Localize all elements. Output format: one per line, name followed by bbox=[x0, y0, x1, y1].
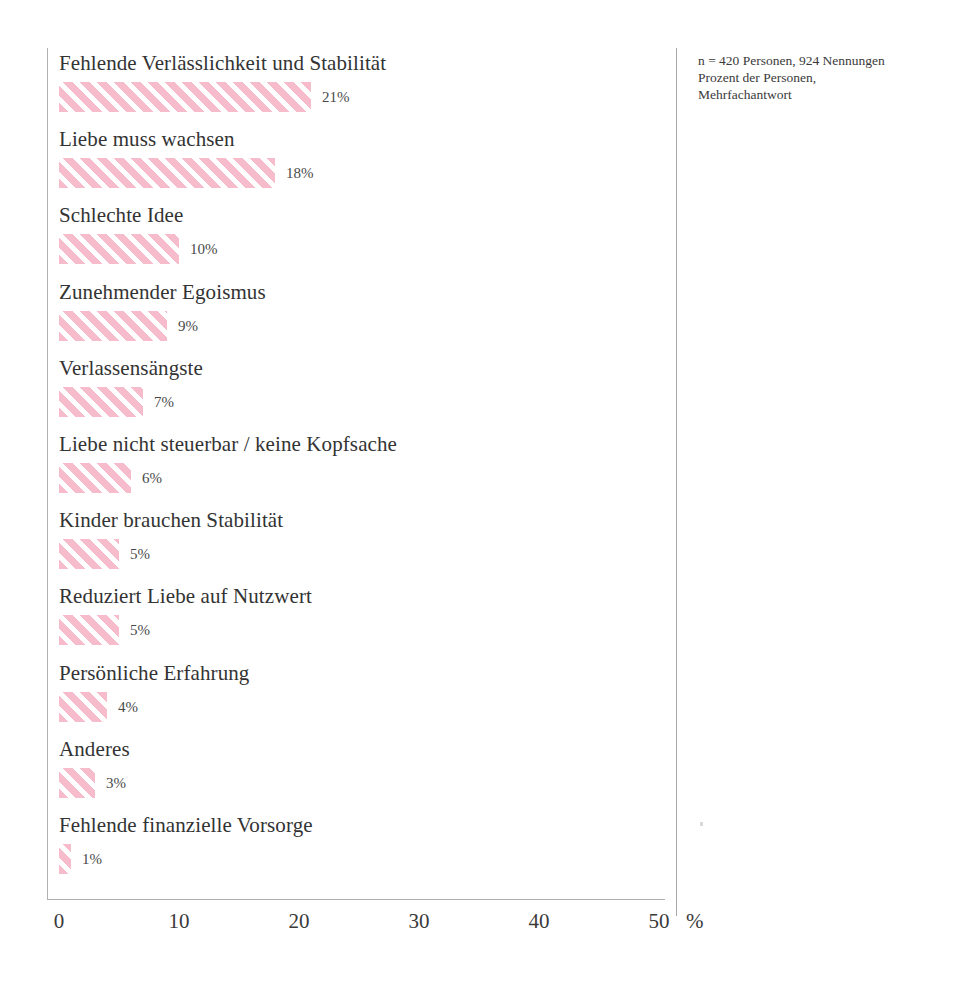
x-axis-tick: 50 bbox=[629, 908, 689, 934]
bar-value-label: 3% bbox=[106, 775, 126, 791]
panel-divider bbox=[676, 48, 677, 916]
bar bbox=[59, 463, 131, 493]
bar bbox=[59, 539, 119, 569]
bar-value-label: 5% bbox=[130, 622, 150, 638]
bar-value-label: 10% bbox=[190, 241, 218, 257]
bar-value-label: 21% bbox=[322, 89, 350, 105]
bar-category-label: Reduziert Liebe auf Nutzwert bbox=[59, 583, 312, 609]
bar-category-label: Liebe muss wachsen bbox=[59, 126, 235, 152]
bar-category-label: Anderes bbox=[59, 736, 130, 762]
y-axis-spine bbox=[47, 48, 48, 900]
bar-value-label: 4% bbox=[118, 699, 138, 715]
bar bbox=[59, 692, 107, 722]
bar bbox=[59, 844, 71, 874]
bar-category-label: Fehlende finanzielle Vorsorge bbox=[59, 812, 313, 838]
bar bbox=[59, 615, 119, 645]
bar-category-label: Verlassensängste bbox=[59, 355, 203, 381]
bar bbox=[59, 311, 167, 341]
chart-note-line-2: Prozent der Personen, bbox=[698, 69, 948, 86]
bar bbox=[59, 158, 275, 188]
bar-category-label: Fehlende Verlässlichkeit und Stabilität bbox=[59, 50, 386, 76]
bar-category-label: Zunehmender Egoismus bbox=[59, 279, 266, 305]
chart-note-line-3: Mehrfachantwort bbox=[698, 86, 948, 103]
x-axis-tick: 20 bbox=[269, 908, 329, 934]
bar-category-label: Kinder brauchen Stabilität bbox=[59, 507, 283, 533]
bar bbox=[59, 234, 179, 264]
x-axis-tick: 10 bbox=[149, 908, 209, 934]
x-axis-tick: 0 bbox=[29, 908, 89, 934]
bar-category-label: Liebe nicht steuerbar / keine Kopfsache bbox=[59, 431, 397, 457]
x-axis-tick: 40 bbox=[509, 908, 569, 934]
bar-value-label: 6% bbox=[142, 470, 162, 486]
bar-value-label: 9% bbox=[178, 318, 198, 334]
bar-value-label: 18% bbox=[286, 165, 314, 181]
bar bbox=[59, 387, 143, 417]
x-axis-tick: 30 bbox=[389, 908, 449, 934]
bar-category-label: Persönliche Erfahrung bbox=[59, 660, 249, 686]
bar bbox=[59, 768, 95, 798]
x-axis-unit-label: % bbox=[686, 908, 704, 934]
bar-value-label: 5% bbox=[130, 546, 150, 562]
bar-category-label: Schlechte Idee bbox=[59, 202, 183, 228]
chart-figure: Fehlende Verlässlichkeit und Stabilität2… bbox=[0, 0, 963, 983]
bar-value-label: 7% bbox=[154, 394, 174, 410]
bar-value-label: 1% bbox=[82, 851, 102, 867]
scan-artifact-speck bbox=[700, 822, 703, 826]
x-axis-spine bbox=[47, 899, 665, 900]
chart-note-line-1: n = 420 Personen, 924 Nennungen bbox=[698, 52, 948, 69]
bar bbox=[59, 82, 311, 112]
chart-note: n = 420 Personen, 924 Nennungen Prozent … bbox=[698, 52, 948, 103]
